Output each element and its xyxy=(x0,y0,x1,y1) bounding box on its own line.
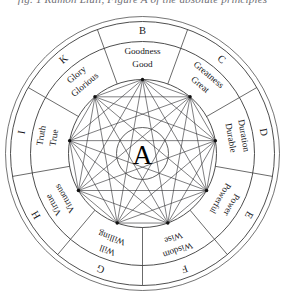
sector-letter-D: D xyxy=(258,127,270,137)
sector-divider-E xyxy=(215,166,272,176)
chord-GH xyxy=(78,191,117,224)
chord-EF xyxy=(168,191,207,224)
sector-letter-G: G xyxy=(95,263,106,276)
sector-adjective-I: True xyxy=(47,129,60,148)
vertex-D xyxy=(214,139,217,142)
vertex-H xyxy=(77,189,80,192)
figure-container: fig. 1 Ramon Llull, Figure A of the abso… xyxy=(0,0,285,293)
sector-adjective-D: Durable xyxy=(224,122,239,153)
sector-letter-K: K xyxy=(57,52,70,66)
sector-divider-D xyxy=(207,88,257,117)
vertex-E xyxy=(205,189,208,192)
vertex-I xyxy=(68,139,71,142)
vertex-C xyxy=(188,95,191,98)
sector-divider-C xyxy=(168,29,188,84)
vertex-B xyxy=(141,78,144,81)
sector-letter-I: I xyxy=(16,129,28,135)
sector-letter-E: E xyxy=(243,210,256,221)
center-letter-a: A xyxy=(133,140,153,170)
sector-letter-C: C xyxy=(215,53,227,66)
sector-letter-F: F xyxy=(180,263,189,275)
llull-figure-a-wheel: A BGoodnessGoodCGreatnessGreatDDurationD… xyxy=(3,14,282,293)
sector-divider-I xyxy=(13,166,70,176)
sector-adjective-F: Wise xyxy=(163,230,184,246)
sector-noun-I: Truth xyxy=(34,124,47,146)
sector-letter-H: H xyxy=(29,209,43,221)
vertex-F xyxy=(166,221,169,224)
chord-FI xyxy=(70,141,168,223)
figure-caption: fig. 1 Ramon Llull, Figure A of the abso… xyxy=(0,0,285,5)
sector-noun-B: Goodness xyxy=(124,46,161,56)
chord-BK xyxy=(95,80,143,97)
vertex-G xyxy=(115,221,118,224)
sector-adjective-B: Good xyxy=(132,59,153,69)
vertex-K xyxy=(93,95,96,98)
sector-letter-B: B xyxy=(139,25,146,36)
sector-divider-B xyxy=(97,29,117,84)
chord-BC xyxy=(143,80,191,97)
